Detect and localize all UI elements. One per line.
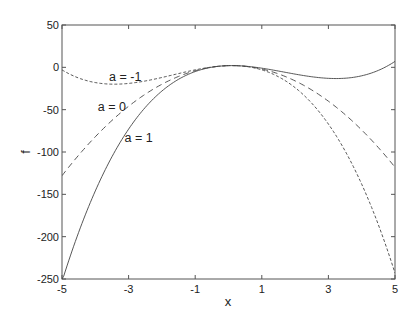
x-tick-label: -3 [124, 283, 134, 295]
series-line [62, 66, 395, 273]
y-tick-label: -250 [37, 273, 59, 285]
x-tick-label: 3 [325, 283, 331, 295]
y-axis-label: f [18, 150, 33, 154]
y-tick-label: 50 [47, 19, 59, 31]
data-series [62, 61, 395, 279]
y-tick-label: -100 [37, 146, 59, 158]
curve-label: a = 0 [98, 100, 126, 114]
y-tick-label: -150 [37, 188, 59, 200]
axes-frame [62, 25, 395, 279]
y-tick-label: -200 [37, 231, 59, 243]
line-chart: -5-3-1135500-50-100-150-200-250 a = -1a … [0, 0, 415, 320]
x-axis-label: x [225, 294, 232, 309]
y-tick-label: 0 [53, 61, 59, 73]
curve-label: a = -1 [109, 70, 141, 84]
x-tick-label: 5 [392, 283, 398, 295]
series-line [62, 61, 395, 279]
y-tick-label: -50 [43, 104, 59, 116]
x-tick-label: 1 [259, 283, 265, 295]
curve-label: a = 1 [125, 131, 153, 145]
plot-area [62, 25, 395, 279]
axis-ticks: -5-3-1135500-50-100-150-200-250 [37, 19, 398, 295]
x-tick-label: -1 [190, 283, 200, 295]
